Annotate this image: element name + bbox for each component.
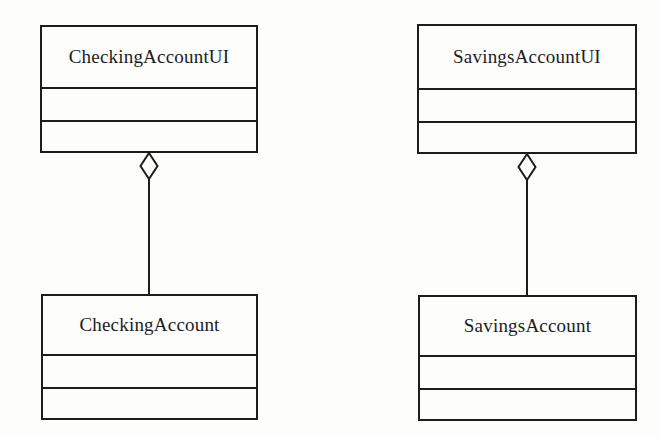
attributes-compartment <box>43 356 256 389</box>
aggregation-connector-checking <box>141 153 158 294</box>
attributes-compartment <box>419 90 635 123</box>
operations-compartment <box>42 122 256 151</box>
aggregation-connector-savings <box>519 154 536 295</box>
operations-compartment <box>419 123 635 152</box>
attributes-compartment <box>420 357 635 390</box>
class-name-checking-account: CheckingAccount <box>43 296 256 356</box>
attributes-compartment <box>42 89 256 122</box>
class-box-savings-account-ui: SavingsAccountUI <box>417 24 637 154</box>
aggregation-diamond-icon <box>519 154 536 180</box>
operations-compartment <box>420 390 635 419</box>
uml-class-diagram: CheckingAccountUI SavingsAccountUI Check… <box>0 0 661 437</box>
aggregation-diamond-icon <box>141 153 158 179</box>
class-name-checking-account-ui: CheckingAccountUI <box>42 27 256 89</box>
class-box-checking-account: CheckingAccount <box>41 294 258 420</box>
class-box-checking-account-ui: CheckingAccountUI <box>40 25 258 153</box>
class-name-savings-account-ui: SavingsAccountUI <box>419 26 635 90</box>
operations-compartment <box>43 389 256 418</box>
class-box-savings-account: SavingsAccount <box>418 295 637 421</box>
class-name-savings-account: SavingsAccount <box>420 297 635 357</box>
